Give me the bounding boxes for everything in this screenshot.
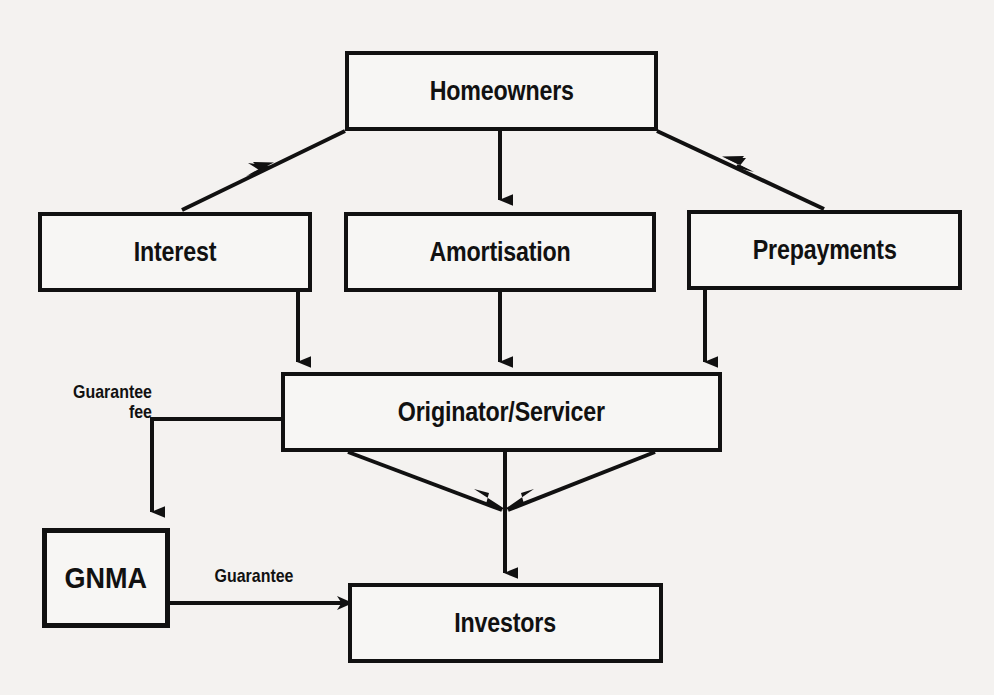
node-amortisation[interactable]: Amortisation — [344, 212, 656, 292]
edge-originator-left-converge — [348, 452, 508, 511]
edge-homeowners-to-interest — [182, 131, 345, 210]
node-label-prepayments: Prepayments — [753, 235, 897, 266]
node-originator-servicer[interactable]: Originator/Servicer — [281, 372, 722, 452]
node-label-gnma: GNMA — [65, 561, 147, 595]
edge-label-guarantee-fee: Guarantee fee — [58, 382, 152, 422]
node-interest[interactable]: Interest — [38, 212, 312, 292]
node-label-homeowners: Homeowners — [429, 76, 573, 107]
edge-homeowners-to-prepayments — [657, 131, 824, 209]
node-gnma[interactable]: GNMA — [42, 528, 170, 628]
node-label-investors: Investors — [455, 608, 557, 639]
node-label-interest: Interest — [134, 237, 217, 268]
node-prepayments[interactable]: Prepayments — [687, 210, 962, 290]
edge-originator-right-converge — [502, 452, 655, 511]
node-label-amortisation: Amortisation — [429, 237, 570, 268]
edge-originator-to-gnma — [152, 419, 281, 512]
node-homeowners[interactable]: Homeowners — [345, 51, 658, 131]
diagram-canvas: Homeowners Interest Amortisation Prepaym… — [0, 0, 994, 695]
node-investors[interactable]: Investors — [348, 583, 663, 663]
edge-label-guarantee: Guarantee — [212, 566, 296, 586]
node-label-originator-servicer: Originator/Servicer — [398, 397, 605, 428]
